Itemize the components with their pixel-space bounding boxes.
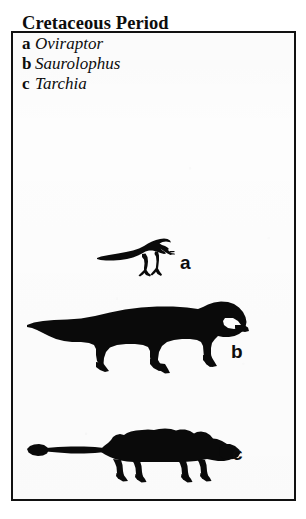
legend-item-saurolophus: bSaurolophus [22, 54, 262, 74]
cretaceous-period-figure-plate: Cretaceous Period aOviraptor bSaurolophu… [0, 0, 306, 519]
legend-taxon-oviraptor: Oviraptor [33, 34, 103, 53]
figure-callout-c: c [232, 444, 243, 463]
figure-callout-b: b [231, 342, 243, 361]
tarchia-silhouette-icon [25, 421, 241, 483]
legend-item-tarchia: cTarchia [22, 74, 262, 94]
legend-taxon-saurolophus: Saurolophus [33, 54, 120, 73]
caption-block: Cretaceous Period aOviraptor bSaurolophu… [22, 13, 262, 94]
oviraptor-silhouette-icon [96, 233, 180, 279]
legend-taxon-tarchia: Tarchia [33, 74, 87, 93]
legend-key-a: a [22, 34, 33, 54]
legend-item-oviraptor: aOviraptor [22, 34, 262, 54]
plate-title: Cretaceous Period [22, 13, 262, 34]
legend-key-b: b [22, 54, 33, 74]
figure-callout-a: a [180, 253, 191, 272]
legend-key-c: c [22, 74, 33, 94]
saurolophus-silhouette-icon [25, 296, 253, 382]
